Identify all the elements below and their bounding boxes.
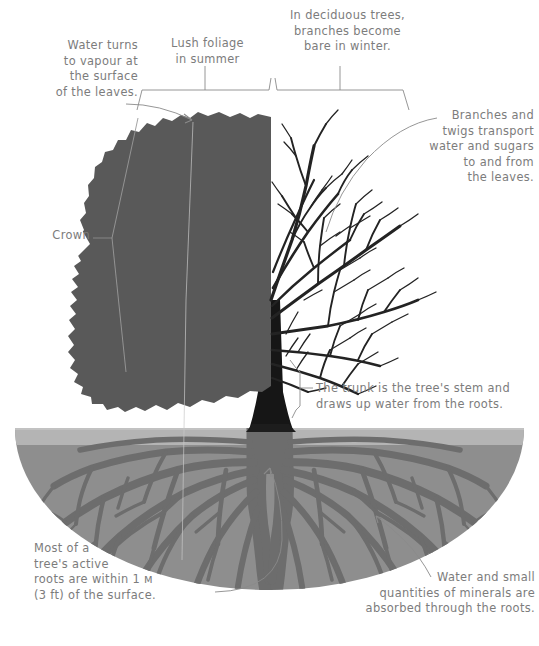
bracket-label-bare: In deciduous trees, branches become bare…	[285, 8, 410, 55]
annotation-crown: Crown	[10, 228, 90, 244]
bare-bracket-line	[275, 78, 409, 110]
bracket-label-foliage: Lush foliage in summer	[155, 36, 260, 67]
bracket-lines	[137, 66, 409, 110]
annotation-branches: Branches and twigs transport water and s…	[414, 108, 534, 186]
foliage-mass	[50, 112, 271, 412]
annotation-absorption: Water and small quantities of minerals a…	[355, 570, 535, 617]
bare-branches	[271, 110, 436, 394]
foliage-bracket-line	[137, 78, 271, 110]
annotation-transpiration: Water turns to vapour at the surface of …	[10, 38, 138, 100]
annotation-active-roots: Most of a tree's active roots are within…	[34, 541, 224, 603]
annotation-trunk: The trunk is the tree's stem and draws u…	[316, 381, 538, 412]
tree-anatomy-diagram: Lush foliage in summer In deciduous tree…	[0, 0, 539, 646]
